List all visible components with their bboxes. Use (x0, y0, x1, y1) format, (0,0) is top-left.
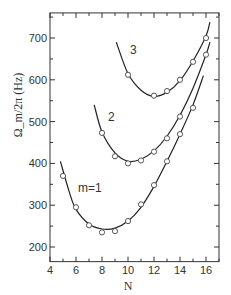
data-point-m=1 (164, 159, 169, 164)
curve-label-m=1: m=1 (78, 181, 102, 195)
x-tick-label: 14 (174, 264, 186, 276)
x-tick-label: 4 (47, 264, 53, 276)
data-point-m=2 (112, 154, 117, 159)
x-tick-label: 10 (122, 264, 134, 276)
data-point-m=3 (164, 88, 169, 93)
data-point-m=1 (151, 183, 156, 188)
data-point-m=3 (151, 93, 156, 98)
y-tick-label: 500 (29, 116, 47, 128)
data-point-m=1 (138, 202, 143, 207)
data-point-m=1 (190, 105, 195, 110)
y-axis-label: Ω_m/2π (Hz) (11, 73, 25, 138)
y-tick-label: 600 (29, 74, 47, 86)
chart: 46810121416 200300400500600700 m=123 N Ω… (0, 0, 231, 295)
x-tick-label: 16 (200, 264, 212, 276)
data-point-m=2 (138, 158, 143, 163)
data-point-m=3 (203, 35, 208, 40)
data-point-m=1 (125, 218, 130, 223)
data-point-m=2 (203, 52, 208, 57)
data-point-m=1 (177, 132, 182, 137)
y-tick-label: 400 (29, 157, 47, 169)
y-tick-label: 700 (29, 32, 47, 44)
y-axis: 200300400500600700 (29, 17, 219, 253)
data-point-m=1 (99, 230, 104, 235)
data-point-m=2 (125, 161, 130, 166)
curve-labels: m=123 (78, 43, 137, 195)
data-point-m=1 (73, 205, 78, 210)
x-tick-label: 6 (73, 264, 79, 276)
y-tick-label: 300 (29, 199, 47, 211)
data-point-m=3 (125, 72, 130, 77)
data-point-m=2 (99, 130, 104, 135)
x-tick-label: 12 (148, 264, 160, 276)
data-point-m=1 (86, 223, 91, 228)
x-axis-label: N (124, 279, 133, 293)
fit-curve-m=1 (60, 76, 203, 230)
data-point-m=1 (112, 229, 117, 234)
curve-label-m=2: 2 (108, 110, 115, 124)
data-point-m=2 (164, 136, 169, 141)
fit-curve-m=3 (116, 22, 210, 96)
y-tick-label: 200 (29, 241, 47, 253)
data-point-m=2 (151, 149, 156, 154)
data-point-m=1 (60, 173, 65, 178)
data-point-m=3 (190, 59, 195, 64)
data-point-m=2 (177, 114, 182, 119)
data-point-m=3 (177, 77, 182, 82)
data-points (60, 35, 208, 235)
curve-label-m=3: 3 (130, 43, 137, 57)
x-tick-label: 8 (99, 264, 105, 276)
